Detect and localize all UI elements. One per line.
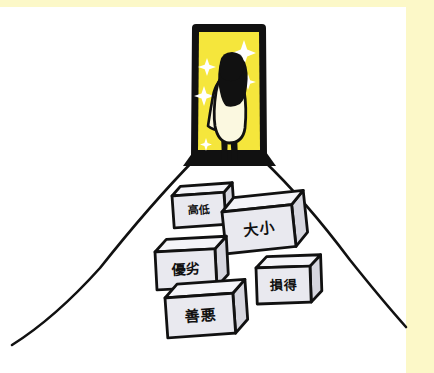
block-label: 高低 bbox=[187, 202, 211, 218]
block: 善悪 bbox=[164, 279, 248, 338]
block-label: 優劣 bbox=[170, 261, 201, 279]
block-label: 善悪 bbox=[184, 306, 216, 326]
glowing-doorway bbox=[191, 24, 267, 160]
illustration-canvas: 高低大小優劣損得善悪 bbox=[0, 0, 434, 373]
block: 大小 bbox=[221, 190, 309, 253]
block-label: 損得 bbox=[270, 277, 298, 293]
block: 損得 bbox=[256, 255, 323, 304]
block-label: 大小 bbox=[243, 219, 276, 240]
block-group: 高低大小優劣損得善悪 bbox=[154, 183, 322, 338]
illustration-artwork: 高低大小優劣損得善悪 bbox=[0, 0, 434, 373]
